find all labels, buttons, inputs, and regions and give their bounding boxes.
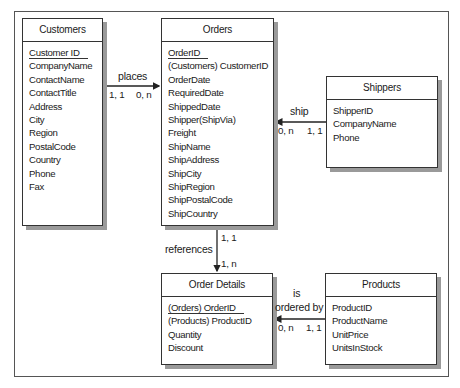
field: UnitPrice	[332, 328, 436, 341]
field: ShipName	[168, 140, 273, 153]
relationship-label-places: places	[118, 70, 147, 82]
cardinality-products: 1, 1	[306, 322, 322, 333]
field: Shipper(ShipVia)	[168, 113, 273, 126]
field: Freight	[168, 126, 273, 139]
relationship-label-ordered-by: ordered by	[275, 301, 323, 313]
field: Fax	[29, 180, 102, 193]
field: RequiredDate	[168, 86, 273, 99]
field: ShipperID	[333, 104, 437, 117]
field-list: OrderID (Customers) CustomerID OrderDate…	[162, 42, 273, 220]
entity-products: Products ProductID ProductName UnitPrice…	[325, 273, 437, 365]
field-list: (Orders) OrderID (Products) ProductID Qu…	[162, 297, 272, 355]
field-list: ProductID ProductName UnitPrice UnitsInS…	[326, 297, 436, 355]
field: UnitsInStock	[332, 341, 436, 354]
field: City	[29, 113, 102, 126]
field-key: OrderID	[168, 46, 273, 59]
field: OrderDate	[168, 73, 273, 86]
field: Phone	[333, 131, 437, 144]
field-list: Customer ID CompanyName ContactName Cont…	[23, 42, 102, 193]
entity-shippers: Shippers ShipperID CompanyName Phone	[326, 76, 438, 168]
field: ProductID	[332, 301, 436, 314]
field: Phone	[29, 167, 102, 180]
field: ShipCountry	[168, 207, 273, 220]
entity-title: Order Details	[162, 274, 272, 297]
field-key: Customer ID	[29, 46, 102, 59]
field: ShipCity	[168, 167, 273, 180]
cardinality-shippers: 1, 1	[307, 125, 323, 136]
cardinality-orders-references: 1, 1	[221, 232, 237, 243]
field-list: ShipperID CompanyName Phone	[327, 100, 437, 144]
field: Region	[29, 126, 102, 139]
cardinality-orders-ship: 0, n	[278, 125, 294, 136]
cardinality-order-details-references: 1, n	[221, 258, 237, 269]
entity-title: Products	[326, 274, 436, 297]
field-key: (Orders) OrderID	[168, 301, 272, 314]
field: (Products) ProductID	[168, 314, 272, 327]
field: CompanyName	[333, 117, 437, 130]
relationship-label-references: references	[165, 243, 213, 255]
field: ContactTitle	[29, 86, 102, 99]
field: ShippedDate	[168, 100, 273, 113]
field: (Customers) CustomerID	[168, 59, 273, 72]
relationship-label-is: is	[293, 287, 300, 299]
cardinality-order-details-products: 0, n	[278, 322, 294, 333]
entity-customers: Customers Customer ID CompanyName Contac…	[22, 18, 103, 226]
field: ShipPostalCode	[168, 193, 273, 206]
entity-order-details: Order Details (Orders) OrderID (Products…	[161, 273, 273, 365]
field: ShipRegion	[168, 180, 273, 193]
cardinality-orders-places: 0, n	[136, 89, 152, 100]
field: Address	[29, 100, 102, 113]
field: CompanyName	[29, 59, 102, 72]
entity-orders: Orders OrderID (Customers) CustomerID Or…	[161, 18, 274, 226]
field: ProductName	[332, 314, 436, 327]
field: PostalCode	[29, 140, 102, 153]
field: Quantity	[168, 328, 272, 341]
entity-title: Shippers	[327, 77, 437, 100]
field: ContactName	[29, 73, 102, 86]
cardinality-customers: 1, 1	[109, 89, 125, 100]
relationship-label-ship: ship	[290, 105, 308, 117]
entity-title: Orders	[162, 19, 273, 42]
field: Country	[29, 153, 102, 166]
entity-title: Customers	[23, 19, 102, 42]
field: Discount	[168, 341, 272, 354]
field: ShipAddress	[168, 153, 273, 166]
